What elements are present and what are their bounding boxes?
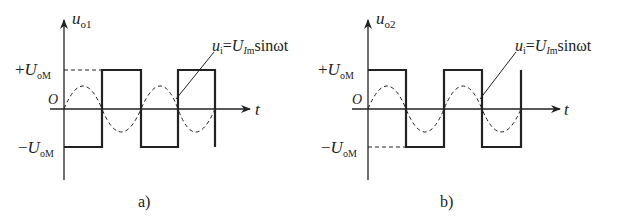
panel-b: uo2 t O +UoM −UoM ui=UImsinωt b) — [318, 9, 592, 211]
origin-label: O — [352, 92, 362, 107]
input-annotation: ui=UImsinωt — [212, 37, 289, 56]
origin-label: O — [48, 92, 58, 107]
waveform-diagram: uo1 t O +UoM −UoM ui=UImsinωt a) uo2 t O… — [0, 0, 622, 220]
pos-level-label: +UoM — [15, 60, 51, 81]
annotation-leader — [480, 52, 516, 99]
y-axis-label: uo2 — [376, 9, 396, 30]
y-axis-label: uo1 — [72, 9, 92, 30]
neg-level-label: −UoM — [321, 138, 357, 159]
annotation-leader — [176, 52, 214, 99]
panel-a: uo1 t O +UoM −UoM ui=UImsinωt a) — [15, 9, 289, 211]
pos-level-label: +UoM — [318, 60, 354, 81]
t-axis-label: t — [255, 100, 261, 119]
panel-a-caption: a) — [138, 193, 150, 211]
t-axis-label: t — [564, 100, 570, 119]
panel-b-caption: b) — [440, 193, 453, 211]
input-annotation: ui=UImsinωt — [515, 37, 592, 56]
neg-level-label: −UoM — [18, 138, 54, 159]
